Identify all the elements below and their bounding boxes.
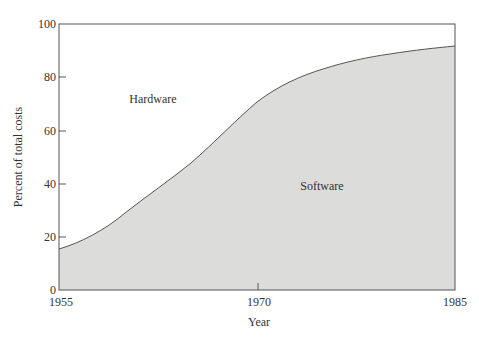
x-tick-label-1955: 1955 <box>49 295 73 309</box>
y-axis <box>59 77 66 237</box>
y-tick-40: 40 <box>44 177 56 191</box>
x-axis-title: Year <box>248 315 270 329</box>
x-tick-label-1970: 1970 <box>247 295 271 309</box>
software-label: Software <box>300 179 343 193</box>
x-tick-label-1985: 1985 <box>443 295 467 309</box>
y-tick-60: 60 <box>44 124 56 138</box>
hardware-label: Hardware <box>129 92 176 106</box>
chart: 100 80 60 40 20 0 1955 1970 1985 Year Pe… <box>0 0 479 339</box>
y-tick-80: 80 <box>44 70 56 84</box>
y-tick-20: 20 <box>44 230 56 244</box>
y-axis-title: Percent of total costs <box>11 107 25 208</box>
software-area <box>59 46 455 290</box>
y-tick-100: 100 <box>38 17 56 31</box>
